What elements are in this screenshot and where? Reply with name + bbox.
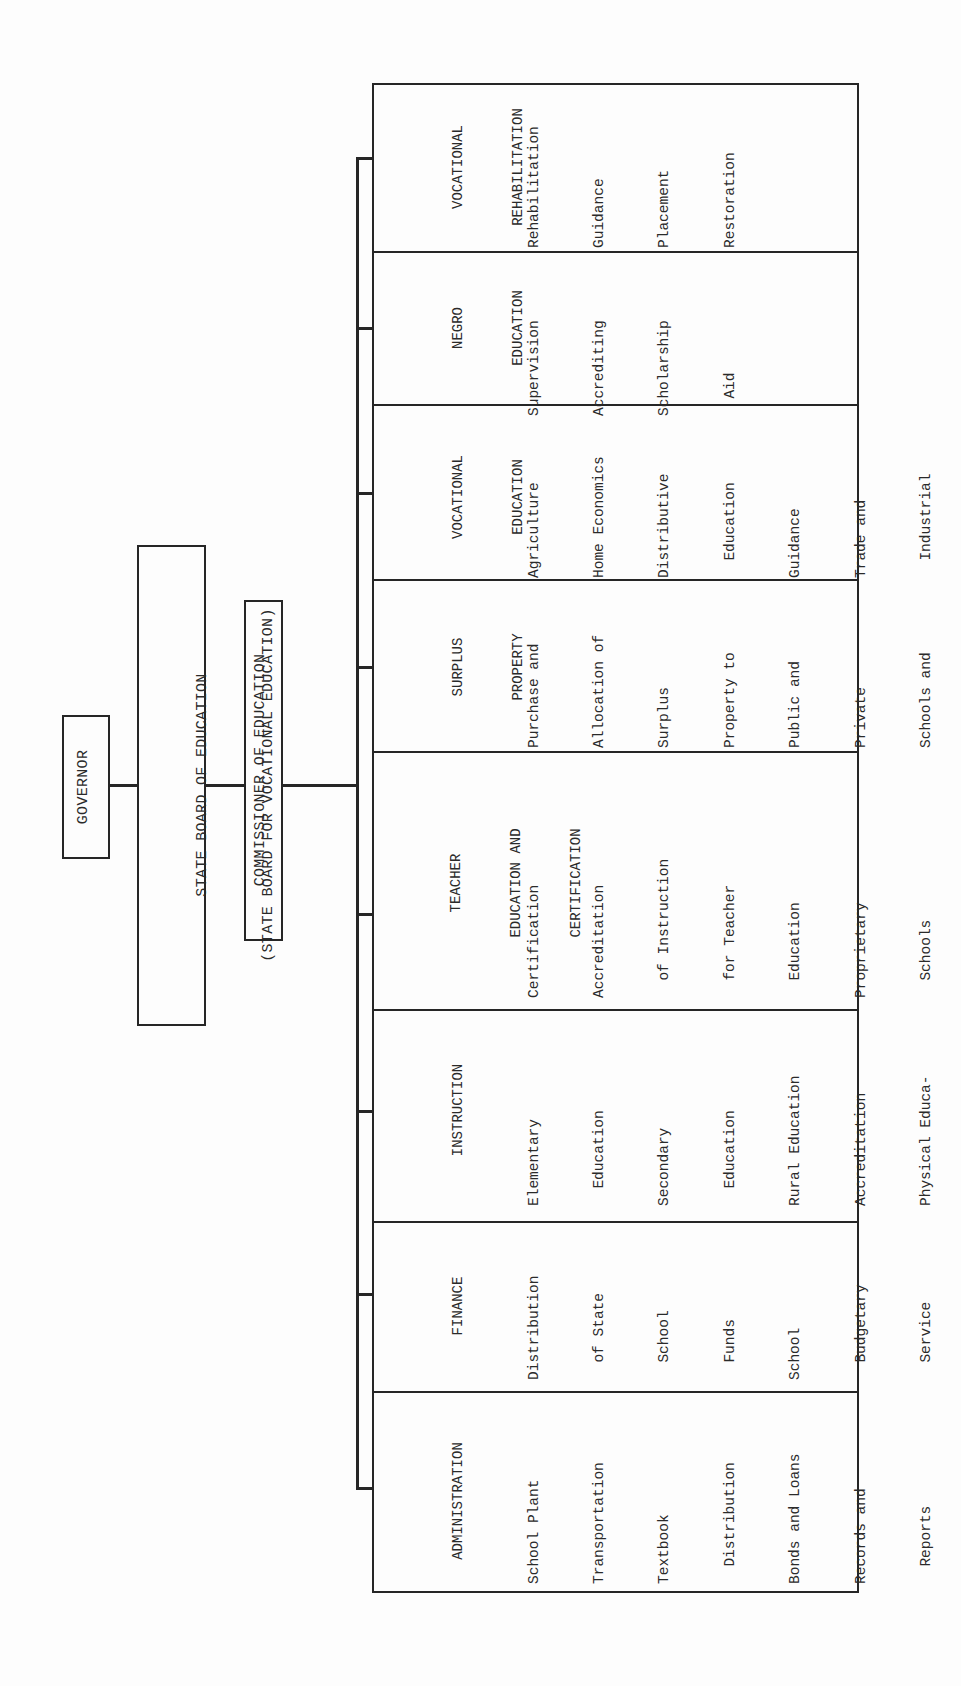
division-items-negro-education: Supervision Accrediting Scholarship Aid [480, 256, 580, 416]
division-header-vocational-rehabilitation: VOCATIONAL REHABILITATION [408, 86, 452, 248]
stub-negro-education [356, 327, 373, 330]
stub-vocational-rehabilitation [356, 157, 373, 160]
connector-board-commissioner [205, 784, 245, 787]
division-header-administration: ADMINISTRATION [408, 1418, 430, 1584]
division-header-finance: FINANCE [408, 1232, 430, 1380]
division-items-vocational-education: Agriculture Home Economics Distributive … [480, 408, 750, 578]
division-items-finance: Distribution of State School Funds Schoo… [480, 1230, 640, 1380]
division-items-administration: School Plant Transportation Textbook Dis… [480, 1414, 730, 1584]
divider [372, 1391, 859, 1393]
stub-instruction [356, 1110, 373, 1113]
division-items-vocational-rehabilitation: Rehabilitation Guidance Placement Restor… [480, 88, 580, 248]
divider [372, 751, 859, 753]
division-items-surplus-property: Purchase and Allocation of Surplus Prope… [480, 578, 660, 748]
stub-vocational-education [356, 492, 373, 495]
division-bracket [356, 157, 359, 1488]
state-board-label: STATE BOARD OF EDUCATION (STATE BOARD FO… [148, 558, 194, 1012]
connector-commissioner-bracket [282, 784, 358, 787]
governor-label: GOVERNOR [76, 724, 96, 850]
division-header-negro-education: NEGRO EDUCATION [408, 256, 452, 400]
division-header-instruction: INSTRUCTION [408, 1014, 430, 1206]
division-header-vocational-education: VOCATIONAL EDUCATION [408, 416, 452, 578]
division-header-surplus-property: SURPLUS PROPERTY [408, 586, 452, 748]
divider [372, 1009, 859, 1011]
division-items-teacher-education: Certification Accreditation of Instructi… [480, 768, 710, 998]
stub-teacher-education [356, 913, 373, 916]
stub-surplus-property [356, 666, 373, 669]
commissioner-label: COMMISSIONER OF EDUCATION [253, 612, 273, 928]
division-header-teacher-education: TEACHER EDUCATION AND CERTIFICATION [406, 768, 470, 998]
stub-finance [356, 1293, 373, 1296]
divider [372, 251, 859, 253]
stub-administration [356, 1487, 373, 1490]
divider [372, 1221, 859, 1223]
connector-governor-board [109, 784, 138, 787]
division-items-instruction: Elementary Education Secondary Education… [480, 1016, 820, 1206]
